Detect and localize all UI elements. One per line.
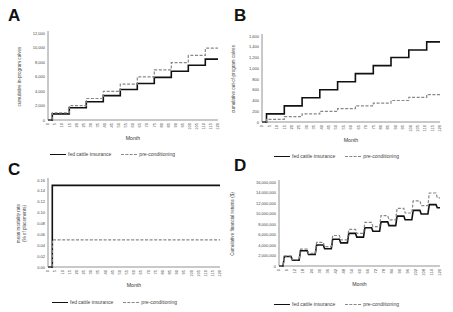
y-tick-label: 12,000,000	[256, 201, 277, 206]
series-pre-conditioning	[48, 240, 220, 267]
y-tick-label: 6,000	[35, 74, 46, 79]
x-tick-label: 90	[174, 269, 179, 274]
chart-d: 02,000,0004,000,0006,000,0008,000,00010,…	[226, 150, 453, 295]
x-tick-label: 120	[437, 124, 442, 131]
y-tick-label: 0.10	[37, 210, 46, 215]
x-tick-label: 102	[413, 268, 418, 275]
legend-label: pre-conditioning	[141, 299, 177, 305]
x-tick-label: 60	[348, 124, 353, 129]
x-tick-label: 18	[300, 268, 305, 273]
x-tick-label: 75	[371, 124, 376, 129]
y-tick-label: 10,000	[33, 45, 46, 50]
x-tick-label: 85	[385, 124, 390, 129]
x-tick-label: 55	[123, 122, 128, 127]
x-tick-label: 78	[381, 268, 386, 273]
x-tick-label: 110	[201, 122, 206, 129]
x-tick-label: 70	[363, 124, 368, 129]
x-tick-label: 45	[109, 122, 114, 127]
series-pre-conditioning	[279, 193, 440, 266]
x-axis-title: Month	[352, 281, 367, 287]
y-tick-label: 1,600	[249, 34, 260, 39]
y-axis-title: Cumulative financial returns ($)	[230, 192, 235, 256]
x-tick-label: 30	[304, 124, 309, 129]
x-tick-label: 90	[397, 268, 402, 273]
legend-item-solid: fed cattle insurance	[274, 301, 335, 307]
x-tick-label: 95	[400, 124, 405, 129]
solid-line-swatch-icon	[52, 302, 68, 303]
x-tick-label: 80	[160, 269, 165, 274]
y-tick-label: 1,400	[249, 44, 260, 49]
x-tick-label: 100	[189, 269, 194, 276]
y-tick-label: 8,000,000	[258, 222, 277, 227]
y-tick-label: 0	[43, 118, 46, 123]
x-tick-label: 115	[210, 269, 215, 276]
y-tick-label: 200	[252, 109, 259, 114]
y-tick-label: 0.04	[37, 243, 46, 248]
x-tick-label: 35	[95, 122, 100, 127]
x-tick-label: 6	[284, 268, 289, 271]
y-axis-title: (% of placements)	[22, 205, 27, 242]
x-tick-label: 25	[296, 124, 301, 129]
legend-label: fed cattle insurance	[70, 299, 113, 305]
x-tick-label: 48	[341, 268, 346, 273]
y-tick-label: 0.08	[37, 221, 46, 226]
x-axis-title: Month	[126, 135, 141, 141]
legend-item-dashed: pre-conditioning	[345, 301, 399, 307]
x-tick-label: 50	[333, 124, 338, 129]
x-tick-label: 65	[356, 124, 361, 129]
y-tick-label: 0	[274, 264, 277, 269]
x-tick-label: 55	[341, 124, 346, 129]
x-tick-label: 5	[267, 124, 272, 127]
legend: fed cattle insurance pre-conditioning	[274, 301, 399, 307]
x-tick-label: 114	[429, 268, 434, 275]
x-tick-label: 30	[317, 268, 322, 273]
x-tick-label: 0	[259, 124, 264, 127]
legend-item-dashed: pre-conditioning	[123, 299, 177, 305]
legend: fed cattle insurance pre-conditioning	[52, 299, 177, 305]
dashed-line-swatch-icon	[123, 302, 139, 303]
panel-d: D 02,000,0004,000,0006,000,0008,000,0001…	[226, 150, 453, 312]
y-tick-label: 6,000,000	[258, 232, 277, 237]
legend-label: pre-conditioning	[363, 301, 399, 307]
x-tick-label: 60	[130, 122, 135, 127]
y-tick-label: 16,000,000	[256, 180, 277, 185]
x-tick-label: 30	[88, 269, 93, 274]
x-tick-label: 110	[422, 124, 427, 131]
x-tick-label: 95	[180, 122, 185, 127]
x-tick-label: 30	[88, 122, 93, 127]
x-tick-label: 105	[194, 122, 199, 129]
dashed-line-swatch-icon	[345, 304, 361, 305]
x-tick-label: 100	[187, 122, 192, 129]
series-fed-cattle-insurance	[48, 59, 218, 120]
y-tick-label: 8,000	[35, 60, 46, 65]
y-tick-label: 0.14	[37, 188, 46, 193]
x-tick-label: 35	[311, 124, 316, 129]
y-tick-label: 1,000	[249, 66, 260, 71]
x-tick-label: 50	[117, 269, 122, 274]
x-tick-label: 20	[74, 122, 79, 127]
x-tick-label: 108	[421, 268, 426, 275]
x-axis-title: Month	[344, 137, 359, 143]
x-tick-label: 45	[326, 124, 331, 129]
x-tick-label: 15	[67, 122, 72, 127]
y-axis-title: cumulative in-program calves	[17, 46, 22, 106]
chart-b: 02004006008001,0001,2001,4001,6000510152…	[226, 0, 453, 150]
x-tick-label: 120	[215, 122, 220, 129]
x-tick-label: 90	[173, 122, 178, 127]
x-tick-label: 20	[74, 269, 79, 274]
x-tick-label: 36	[325, 268, 330, 273]
y-tick-label: 1,200	[249, 55, 260, 60]
series-fed-cattle-insurance	[48, 185, 220, 267]
x-tick-label: 40	[319, 124, 324, 129]
x-tick-label: 70	[144, 122, 149, 127]
y-tick-label: 0	[257, 120, 260, 125]
x-tick-label: 60	[131, 269, 136, 274]
x-tick-label: 105	[415, 124, 420, 131]
y-tick-label: 0.12	[37, 199, 46, 204]
x-tick-label: 10	[60, 269, 65, 274]
x-tick-label: 72	[373, 268, 378, 273]
legend-item-solid: fed cattle insurance	[52, 299, 113, 305]
x-tick-label: 24	[309, 268, 314, 273]
x-tick-label: 35	[95, 269, 100, 274]
y-tick-label: 10,000,000	[256, 211, 277, 216]
